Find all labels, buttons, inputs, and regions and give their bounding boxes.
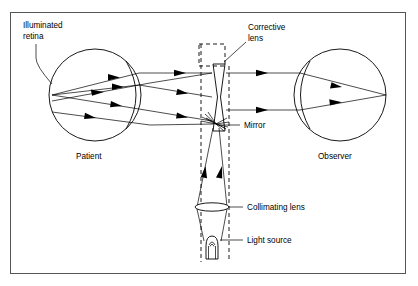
- ray-bulb-left: [197, 209, 204, 241]
- ray-source-right: [219, 128, 227, 207]
- ray-bulb-right: [221, 209, 227, 241]
- ray-arrow-patient-middle-out: [176, 89, 188, 95]
- leader-illuminated-retina: [36, 44, 52, 84]
- ray-arrow-patient-lower-out: [176, 112, 188, 118]
- ray-arrow-observer-upper-1: [256, 70, 268, 76]
- corrective-lens: [213, 64, 225, 131]
- observer-cornea: [301, 61, 311, 129]
- ray-bundle-lens-to-observer: [226, 70, 386, 113]
- label-observer: Observer: [318, 152, 352, 161]
- leader-corrective-lens: [224, 42, 246, 62]
- figure-border: [11, 13, 406, 274]
- light-source-bulb: [206, 236, 218, 259]
- ray-arrow-crossing-upper: [91, 90, 104, 96]
- ray-arrow-observer-lower-2: [329, 99, 342, 105]
- ray-arrow-observer-lower-1: [256, 107, 268, 113]
- ray-arrow-source-left: [201, 166, 207, 178]
- ray-arrow-patient-upper-out: [174, 70, 186, 76]
- label-corrective-lens-line1: Corrective: [248, 23, 286, 32]
- optical-diagram-canvas: Illuminated retina Corrective lens Patie…: [0, 0, 418, 286]
- label-illuminated-retina-line2: retina: [23, 32, 44, 41]
- optical-diagram-figure: Illuminated retina Corrective lens Patie…: [0, 0, 418, 286]
- alignment-box: [199, 44, 225, 66]
- label-light-source: Light source: [247, 236, 292, 245]
- ray-patient-upper: [52, 73, 212, 95]
- ray-observer-lower: [226, 95, 386, 110]
- ray-bundle-source-to-mirror: [197, 128, 227, 241]
- light-source: [206, 236, 218, 259]
- ray-arrow-source-right: [216, 166, 222, 178]
- ray-arrow-crossing-lower: [84, 113, 96, 119]
- label-collimating-lens: Collimating lens: [247, 203, 305, 212]
- ray-patient-middle: [52, 85, 212, 97]
- ray-bundle-patient-to-lens: [52, 70, 214, 125]
- ray-crossing-upper: [52, 73, 212, 101]
- label-patient: Patient: [76, 152, 102, 161]
- label-illuminated-retina-line1: Illuminated: [23, 21, 63, 30]
- label-corrective-lens-line2: lens: [248, 34, 263, 43]
- label-mirror: Mirror: [244, 121, 266, 130]
- ray-observer-upper: [226, 73, 386, 95]
- collimating-lens: [195, 203, 229, 211]
- observer-eye-globe: [294, 49, 386, 141]
